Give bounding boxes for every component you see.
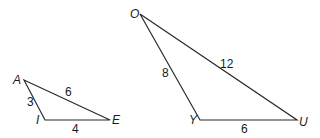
side-label-yu: 6	[241, 122, 248, 136]
vertex-label-i: I	[36, 113, 40, 127]
vertex-label-a: A	[12, 73, 21, 87]
triangle-aie: A I E 3 6 4	[12, 73, 121, 136]
side-label-ae: 6	[65, 85, 72, 99]
side-label-oy: 8	[162, 66, 169, 80]
vertex-label-e: E	[112, 113, 121, 127]
vertex-label-y: Y	[189, 113, 198, 127]
vertex-label-u: U	[299, 115, 308, 129]
diagram-canvas: A I E 3 6 4 O Y U 8 12 6	[0, 0, 320, 138]
vertex-label-o: O	[130, 7, 139, 21]
side-label-ie: 4	[72, 122, 79, 136]
triangle-oyu: O Y U 8 12 6	[130, 7, 308, 136]
side-label-ai: 3	[27, 95, 34, 109]
side-label-ou: 12	[220, 57, 234, 71]
